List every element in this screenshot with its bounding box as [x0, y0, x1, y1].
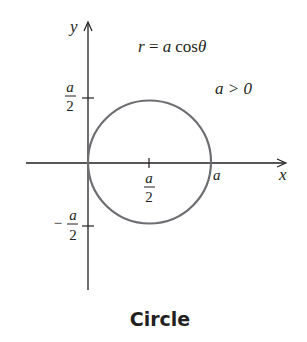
x-tick-label-a: a	[213, 167, 221, 183]
y-tick-label-neg-half: − a 2	[54, 207, 78, 243]
condition-label: a > 0	[215, 79, 252, 98]
svg-text:a: a	[66, 79, 74, 95]
svg-text:2: 2	[69, 227, 77, 243]
figure-caption: Circle	[130, 308, 191, 330]
svg-text:−: −	[54, 215, 62, 231]
x-axis-label: x	[278, 165, 287, 184]
polar-graph: y x r = acosθ a > 0 a 2 − a 2 a 2 a Circ…	[0, 0, 307, 342]
equation-label: r = acosθ	[138, 37, 206, 56]
svg-text:a: a	[69, 207, 77, 223]
y-axis-label: y	[68, 17, 78, 36]
y-tick-label-pos-half: a 2	[65, 79, 76, 114]
svg-text:2: 2	[145, 189, 153, 205]
x-tick-label-half: a 2	[144, 170, 155, 205]
svg-text:2: 2	[66, 98, 74, 114]
svg-text:a: a	[145, 170, 153, 186]
